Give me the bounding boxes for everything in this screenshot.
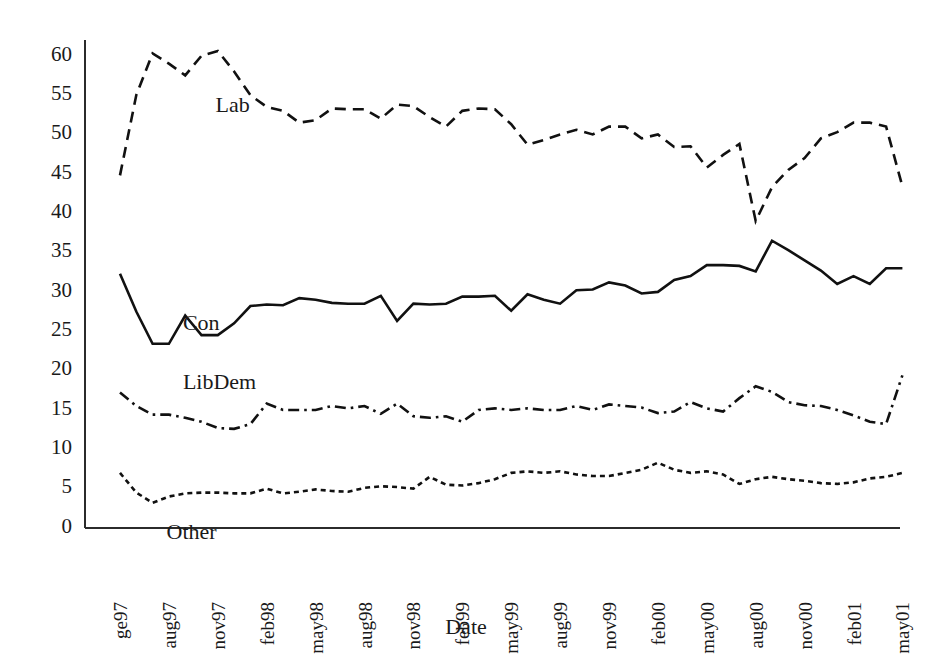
- data-series-group: [120, 51, 902, 503]
- y-tick-label: 35: [51, 238, 72, 262]
- y-tick-label: 55: [51, 81, 72, 105]
- x-tick-label: aug00: [746, 602, 767, 648]
- x-tick-label: feb98: [257, 602, 278, 645]
- y-tick-label: 25: [51, 317, 72, 341]
- x-axis-tick-labels: ge97aug97nov97feb98may98aug98nov98feb99m…: [110, 602, 913, 654]
- series-line-lab: [120, 51, 902, 221]
- y-tick-label: 10: [51, 435, 72, 459]
- y-tick-label: 0: [62, 514, 73, 538]
- x-tick-label: nov98: [403, 602, 424, 650]
- x-tick-label: aug99: [550, 602, 571, 648]
- y-tick-label: 45: [51, 160, 72, 184]
- axis-lines: [85, 40, 900, 528]
- x-tick-label: may98: [306, 602, 327, 654]
- x-tick-label: nov00: [795, 602, 816, 650]
- series-label-con: Con: [183, 310, 220, 335]
- x-axis-title: Date: [445, 614, 487, 639]
- y-tick-label: 60: [51, 42, 72, 66]
- x-tick-label: aug98: [355, 602, 376, 648]
- y-tick-label: 30: [51, 278, 72, 302]
- series-label-lab: Lab: [216, 92, 250, 117]
- y-tick-label: 40: [51, 199, 72, 223]
- y-tick-label: 20: [51, 356, 72, 380]
- y-tick-label: 50: [51, 120, 72, 144]
- chart-container: 051015202530354045505560 LabConLibDemOth…: [0, 0, 936, 657]
- x-tick-label: may01: [892, 602, 913, 654]
- y-tick-label: 15: [51, 396, 72, 420]
- x-tick-label: ge97: [110, 602, 131, 639]
- x-tick-label: nov99: [599, 602, 620, 650]
- series-label-other: Other: [167, 519, 218, 544]
- series-label-libdem: LibDem: [183, 369, 256, 394]
- series-inline-labels: LabConLibDemOther: [167, 92, 257, 544]
- y-tick-label: 5: [62, 474, 73, 498]
- x-tick-label: nov97: [208, 602, 229, 650]
- line-chart: 051015202530354045505560 LabConLibDemOth…: [0, 0, 936, 657]
- series-line-con: [120, 241, 902, 344]
- x-tick-label: may00: [697, 602, 718, 654]
- x-tick-label: aug97: [159, 602, 180, 648]
- y-axis-tick-labels: 051015202530354045505560: [51, 42, 72, 538]
- x-tick-label: feb00: [648, 602, 669, 645]
- series-line-other: [120, 463, 902, 503]
- x-tick-label: feb01: [844, 602, 865, 645]
- x-tick-label: may99: [501, 602, 522, 654]
